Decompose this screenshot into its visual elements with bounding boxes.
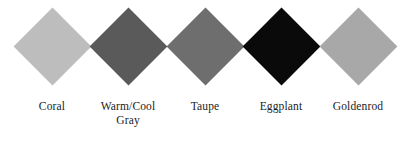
swatch-row: Coral Warm/Cool Gray Taupe Eggplant Gold [0, 0, 411, 147]
swatch-diamond-wrap [317, 8, 399, 86]
diamond-swatch-coral[interactable] [13, 8, 91, 86]
swatch-item-warm-cool-gray[interactable]: Warm/Cool Gray [87, 0, 169, 147]
swatch-label-goldenrod: Goldenrod [303, 99, 411, 113]
diamond-swatch-goldenrod[interactable] [319, 8, 397, 86]
swatch-item-taupe[interactable]: Taupe [164, 0, 246, 147]
swatch-diamond-wrap [164, 8, 246, 86]
swatch-diamond-wrap [240, 8, 322, 86]
diamond-swatch-taupe[interactable] [166, 8, 244, 86]
color-swatch-chart: Coral Warm/Cool Gray Taupe Eggplant Gold [0, 0, 411, 147]
diamond-swatch-warm-cool-gray[interactable] [89, 8, 167, 86]
swatch-diamond-wrap [87, 8, 169, 86]
diamond-swatch-eggplant[interactable] [242, 8, 320, 86]
swatch-item-goldenrod[interactable]: Goldenrod [317, 0, 399, 147]
swatch-diamond-wrap [11, 8, 93, 86]
swatch-item-eggplant[interactable]: Eggplant [240, 0, 322, 147]
